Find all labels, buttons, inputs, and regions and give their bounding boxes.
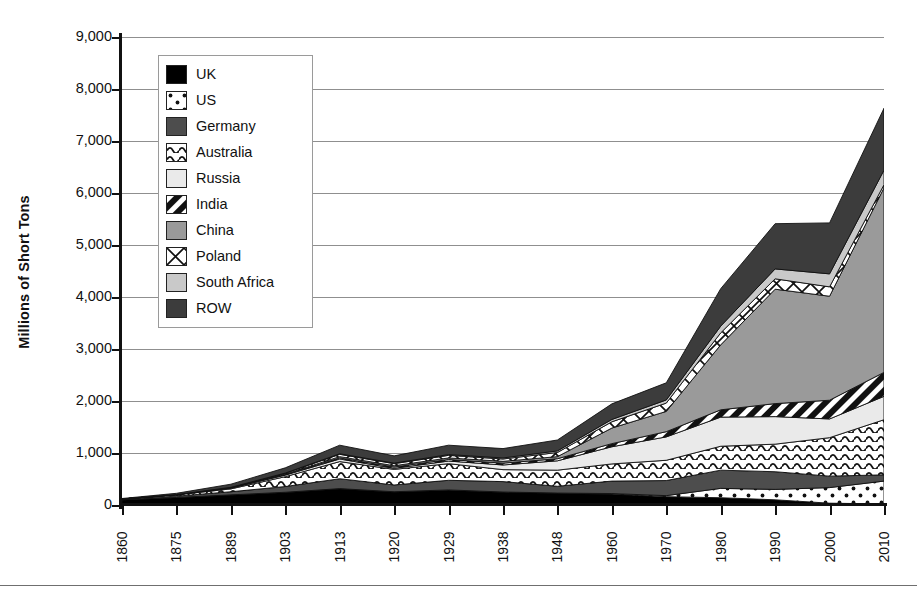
x-tick-label-wrap: 1889 <box>221 519 241 579</box>
x-tick-label: 1903 <box>277 517 293 577</box>
legend-swatch-diagonal <box>166 195 187 214</box>
x-tick-1948 <box>557 506 559 515</box>
y-tick-label: 2,000 <box>52 392 112 408</box>
x-tick-label: 1960 <box>604 517 620 577</box>
chart-legend: UKUSGermanyAustraliaRussiaIndiaChinaPola… <box>158 55 313 328</box>
y-tick-label-wrap: 2,000 <box>44 392 112 410</box>
x-tick-1903 <box>285 506 287 515</box>
legend-swatch-dots <box>166 91 187 110</box>
x-tick-label: 1970 <box>658 517 674 577</box>
x-tick-1970 <box>666 506 668 515</box>
y-tick-label-wrap: 3,000 <box>44 340 112 358</box>
y-axis-title: Millions of Short Tons <box>16 142 32 402</box>
x-tick-label-wrap: 1875 <box>166 519 186 579</box>
legend-swatch-cross <box>166 247 187 266</box>
x-tick-label-wrap: 1980 <box>711 519 731 579</box>
x-tick-label-wrap: 1970 <box>656 519 676 579</box>
legend-item-australia[interactable]: Australia <box>166 139 312 165</box>
x-tick-label-wrap: 1948 <box>547 519 567 579</box>
y-tick-label: 9,000 <box>52 28 112 44</box>
x-tick-label: 1875 <box>168 517 184 577</box>
legend-item-poland[interactable]: Poland <box>166 243 312 269</box>
x-tick-1860 <box>122 506 124 515</box>
x-tick-label: 1938 <box>495 517 511 577</box>
legend-label: Russia <box>196 171 240 186</box>
y-tick-label: 0 <box>52 496 112 512</box>
x-tick-label-wrap: 2000 <box>820 519 840 579</box>
legend-label: China <box>196 223 234 238</box>
x-tick-label: 1889 <box>223 517 239 577</box>
x-tick-label: 1948 <box>549 517 565 577</box>
legend-swatch-solid-darkgray <box>166 117 187 136</box>
legend-label: India <box>196 197 227 212</box>
y-tick-label: 8,000 <box>52 80 112 96</box>
legend-item-us[interactable]: US <box>166 87 312 113</box>
legend-item-germany[interactable]: Germany <box>166 113 312 139</box>
x-tick-1913 <box>340 506 342 515</box>
legend-swatch-solid-light <box>166 273 187 292</box>
chart-root: Millions of Short Tons 01,0002,0003,0004… <box>0 0 917 597</box>
y-tick-label: 3,000 <box>52 340 112 356</box>
x-tick-label: 1980 <box>713 517 729 577</box>
bottom-rule <box>0 585 917 586</box>
x-tick-label-wrap: 2010 <box>874 519 894 579</box>
legend-label: US <box>196 93 216 108</box>
legend-label: ROW <box>196 301 231 316</box>
y-tick-label-wrap: 0 <box>44 496 112 514</box>
x-tick-1960 <box>612 506 614 515</box>
legend-label: South Africa <box>196 275 274 290</box>
legend-label: UK <box>196 67 216 82</box>
x-tick-label: 1860 <box>114 517 130 577</box>
x-tick-1980 <box>721 506 723 515</box>
y-tick-label-wrap: 5,000 <box>44 236 112 254</box>
x-tick-1889 <box>231 506 233 515</box>
y-axis-line <box>119 33 122 509</box>
legend-label: Australia <box>196 145 252 160</box>
y-tick-label-wrap: 8,000 <box>44 80 112 98</box>
x-tick-1938 <box>503 506 505 515</box>
legend-swatch-solid-midgray <box>166 221 187 240</box>
legend-label: Germany <box>196 119 256 134</box>
x-tick-label-wrap: 1990 <box>765 519 785 579</box>
x-tick-label: 1990 <box>767 517 783 577</box>
x-tick-label: 1913 <box>332 517 348 577</box>
y-tick-label-wrap: 6,000 <box>44 184 112 202</box>
x-tick-1920 <box>394 506 396 515</box>
x-tick-label-wrap: 1903 <box>275 519 295 579</box>
x-tick-1990 <box>775 506 777 515</box>
legend-item-russia[interactable]: Russia <box>166 165 312 191</box>
x-tick-label: 2010 <box>876 517 892 577</box>
y-tick-label-wrap: 4,000 <box>44 288 112 306</box>
x-tick-label: 2000 <box>822 517 838 577</box>
x-tick-label: 1920 <box>386 517 402 577</box>
legend-item-uk[interactable]: UK <box>166 61 312 87</box>
legend-item-row[interactable]: ROW <box>166 295 312 321</box>
y-tick-label-wrap: 9,000 <box>44 28 112 46</box>
y-tick-label: 1,000 <box>52 444 112 460</box>
x-tick-label-wrap: 1920 <box>384 519 404 579</box>
x-tick-label-wrap: 1929 <box>439 519 459 579</box>
legend-item-india[interactable]: India <box>166 191 312 217</box>
x-tick-1875 <box>176 506 178 515</box>
legend-swatch-solid-verylight <box>166 169 187 188</box>
x-tick-label: 1929 <box>441 517 457 577</box>
legend-label: Poland <box>196 249 241 264</box>
x-tick-label-wrap: 1960 <box>602 519 622 579</box>
x-tick-label-wrap: 1860 <box>112 519 132 579</box>
y-tick-label: 5,000 <box>52 236 112 252</box>
y-tick-label-wrap: 7,000 <box>44 132 112 150</box>
x-tick-2010 <box>884 506 886 515</box>
legend-item-south-africa[interactable]: South Africa <box>166 269 312 295</box>
y-tick-label-wrap: 1,000 <box>44 444 112 462</box>
y-tick-label: 4,000 <box>52 288 112 304</box>
legend-item-china[interactable]: China <box>166 217 312 243</box>
x-tick-label-wrap: 1938 <box>493 519 513 579</box>
legend-swatch-solid-charcoal <box>166 299 187 318</box>
legend-swatch-waves <box>166 143 187 162</box>
y-tick-label: 6,000 <box>52 184 112 200</box>
y-tick-label: 7,000 <box>52 132 112 148</box>
x-tick-label-wrap: 1913 <box>330 519 350 579</box>
x-tick-1929 <box>449 506 451 515</box>
legend-swatch-solid-black <box>166 65 187 84</box>
x-tick-2000 <box>830 506 832 515</box>
